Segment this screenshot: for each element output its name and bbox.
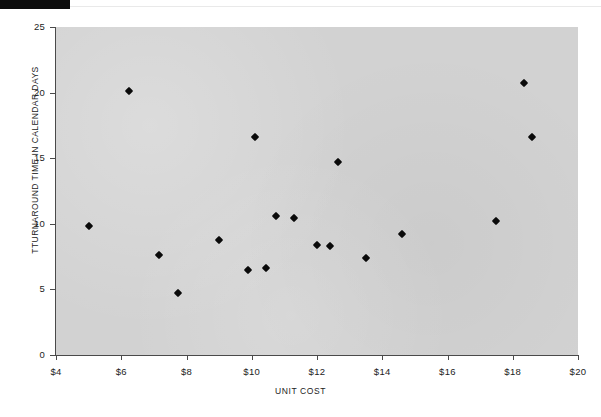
x-tick-mark — [578, 355, 579, 360]
y-tick-mark — [50, 158, 55, 159]
x-tick-mark — [382, 355, 383, 360]
scatter-plot-figure: 0510152025 $4$6$8$10$12$14$16$18$20 TTUR… — [0, 0, 601, 417]
y-tick-mark — [50, 224, 55, 225]
x-tick-label: $14 — [352, 366, 412, 377]
x-axis-title: UNIT COST — [0, 386, 601, 396]
x-tick-label: $18 — [483, 366, 543, 377]
x-tick-label: $20 — [548, 366, 601, 377]
x-tick-mark — [56, 355, 57, 360]
x-tick-label: $6 — [91, 366, 151, 377]
y-axis-title: TTURNAROUND TIME IN CALENDAR DAYS — [30, 40, 40, 280]
x-tick-mark — [448, 355, 449, 360]
x-tick-mark — [513, 355, 514, 360]
x-tick-mark — [121, 355, 122, 360]
plot-area — [56, 27, 578, 355]
y-tick-mark — [50, 93, 55, 94]
x-tick-mark — [317, 355, 318, 360]
y-tick-mark — [50, 27, 55, 28]
y-tick-mark — [50, 355, 55, 356]
x-tick-label: $8 — [157, 366, 217, 377]
y-axis-line — [55, 27, 56, 356]
x-tick-label: $10 — [222, 366, 282, 377]
x-tick-label: $4 — [26, 366, 86, 377]
y-tick-label: 5 — [0, 283, 45, 294]
x-tick-mark — [187, 355, 188, 360]
y-tick-mark — [50, 289, 55, 290]
x-tick-label: $16 — [418, 366, 478, 377]
x-tick-mark — [252, 355, 253, 360]
x-tick-label: $12 — [287, 366, 347, 377]
y-tick-label: 25 — [0, 21, 45, 32]
y-tick-label: 0 — [0, 349, 45, 360]
